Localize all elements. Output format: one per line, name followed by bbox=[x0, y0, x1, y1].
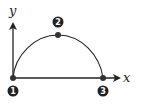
y-axis-label: y bbox=[8, 3, 17, 18]
trajectory-diagram: y x 1 2 3 bbox=[0, 0, 141, 104]
point-1-dot bbox=[10, 75, 16, 81]
x-axis-label: x bbox=[123, 70, 131, 85]
point-3-badge: 3 bbox=[98, 86, 109, 97]
trajectory-curve bbox=[13, 35, 103, 78]
point-2-dot bbox=[55, 32, 61, 38]
point-2-badge: 2 bbox=[53, 17, 64, 28]
point-1-badge: 1 bbox=[8, 86, 19, 97]
point-3-dot bbox=[100, 75, 106, 81]
diagram-canvas: y x 1 2 3 bbox=[0, 0, 141, 104]
point-3-label: 3 bbox=[100, 87, 106, 96]
point-2-label: 2 bbox=[55, 18, 61, 27]
point-1-label: 1 bbox=[10, 87, 16, 96]
